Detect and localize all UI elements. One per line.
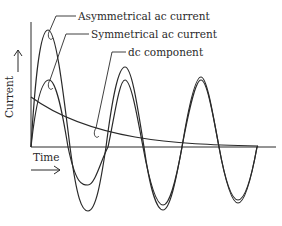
symmetrical-ac-curve bbox=[31, 80, 258, 205]
symmetrical-label: Symmetrical ac current bbox=[91, 29, 217, 40]
x-axis-label: Time bbox=[33, 152, 60, 163]
dc-component-label: dc component bbox=[128, 47, 203, 58]
asymmetrical-label: Asymmetrical ac current bbox=[78, 11, 210, 22]
dc-leader bbox=[94, 52, 126, 137]
y-axis-label: Current bbox=[3, 76, 15, 118]
